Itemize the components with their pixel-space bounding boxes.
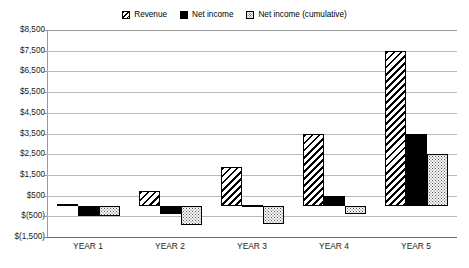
y-axis-tick bbox=[43, 92, 47, 93]
y-axis-tick bbox=[43, 154, 47, 155]
bar-net-income-cumulative bbox=[345, 206, 366, 214]
y-axis-tick-label: $7,500 bbox=[20, 47, 45, 55]
bar-net-income bbox=[406, 134, 427, 206]
bar-net-income-cumulative bbox=[99, 206, 120, 216]
legend-item-revenue: Revenue bbox=[122, 10, 167, 19]
bar-group bbox=[303, 30, 366, 237]
y-axis-tick bbox=[43, 51, 47, 52]
bar-revenue bbox=[57, 204, 78, 206]
x-axis-tick-label: YEAR 4 bbox=[293, 241, 375, 252]
y-axis-tick-label: $3,500 bbox=[20, 130, 45, 138]
bar-group bbox=[221, 30, 284, 237]
legend-item-net-income: Net income bbox=[180, 10, 233, 19]
y-axis-tick-label: $(500) bbox=[21, 212, 45, 220]
bar-net-income-cumulative bbox=[181, 206, 202, 225]
bar-group bbox=[57, 30, 120, 237]
x-axis-tick-label: YEAR 1 bbox=[47, 241, 129, 252]
bar-net-income bbox=[160, 206, 181, 214]
solid-swatch-icon bbox=[180, 11, 188, 19]
bar-chart: Revenue Net income Net income (cumulativ… bbox=[0, 0, 469, 268]
legend-label-net-income-cumulative: Net income (cumulative) bbox=[258, 10, 346, 19]
dotted-swatch-icon bbox=[246, 11, 254, 19]
bar-net-income bbox=[324, 196, 345, 206]
bar-revenue bbox=[139, 191, 160, 205]
y-axis-tick bbox=[43, 196, 47, 197]
y-axis-tick bbox=[43, 216, 47, 217]
y-axis-tick-label: $(1,500) bbox=[15, 233, 46, 241]
y-axis-labels: $8,500$7,500$6,500$5,500$4,500$3,500$2,5… bbox=[0, 30, 45, 237]
legend-label-revenue: Revenue bbox=[134, 10, 167, 19]
legend-label-net-income: Net income bbox=[192, 10, 233, 19]
legend-item-net-income-cumulative: Net income (cumulative) bbox=[246, 10, 346, 19]
y-axis-tick bbox=[43, 113, 47, 114]
y-axis-tick-label: $5,500 bbox=[20, 88, 45, 96]
x-axis-tick-label: YEAR 2 bbox=[129, 241, 211, 252]
hatch-swatch-icon bbox=[122, 11, 130, 19]
bar-group bbox=[139, 30, 202, 237]
y-axis-tick-label: $2,500 bbox=[20, 150, 45, 158]
bar-net-income-cumulative bbox=[263, 206, 284, 224]
x-axis-line bbox=[47, 237, 457, 238]
x-axis-tick-label: YEAR 3 bbox=[211, 241, 293, 252]
bar-revenue bbox=[221, 167, 242, 206]
bar-net-income bbox=[242, 205, 263, 207]
y-axis-tick bbox=[43, 30, 47, 31]
bar-net-income-cumulative bbox=[427, 154, 448, 206]
y-axis-tick-label: $6,500 bbox=[20, 67, 45, 75]
y-axis-tick bbox=[43, 71, 47, 72]
y-axis-tick bbox=[43, 175, 47, 176]
bar-revenue bbox=[303, 134, 324, 206]
y-axis-tick bbox=[43, 134, 47, 135]
bar-net-income bbox=[78, 206, 99, 216]
y-axis-tick-label: $1,500 bbox=[20, 171, 45, 179]
chart-legend: Revenue Net income Net income (cumulativ… bbox=[0, 7, 469, 22]
plot-area bbox=[47, 30, 457, 237]
bar-revenue bbox=[385, 51, 406, 206]
y-axis-tick-label: $4,500 bbox=[20, 109, 45, 117]
x-axis-labels: YEAR 1YEAR 2YEAR 3YEAR 4YEAR 5 bbox=[47, 241, 457, 257]
bar-group bbox=[385, 30, 448, 237]
x-axis-tick-label: YEAR 5 bbox=[375, 241, 457, 252]
y-axis-tick-label: $8,500 bbox=[20, 26, 45, 34]
